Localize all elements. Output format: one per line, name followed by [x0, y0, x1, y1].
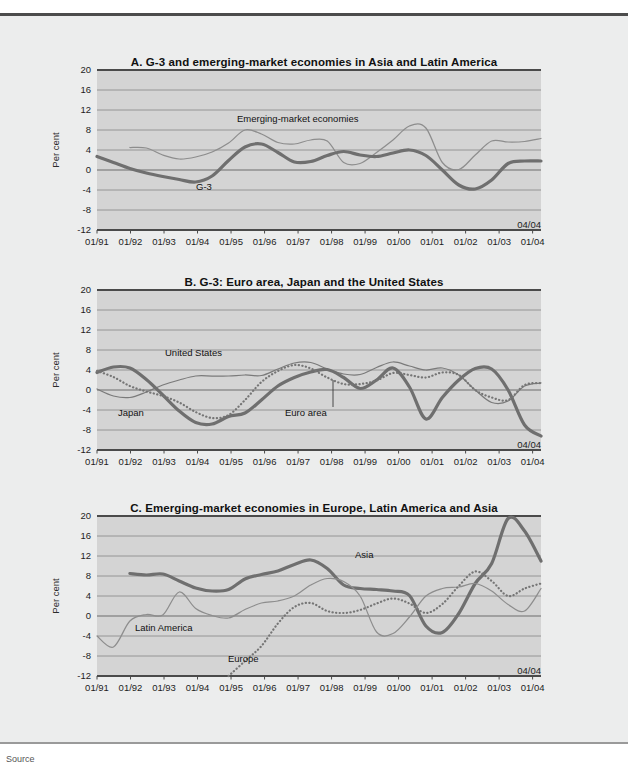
x-tick-label: 01/97: [286, 456, 310, 467]
x-tick-label: 01/02: [454, 456, 478, 467]
series-label-japan: Japan: [118, 407, 144, 418]
panel-a: A. G-3 and emerging-market economies in …: [0, 44, 628, 274]
x-tick-label: 01/94: [186, 456, 210, 467]
y-tick-label: 4: [86, 590, 91, 601]
x-tick-label: 01/00: [387, 682, 411, 693]
y-tick-label: -8: [83, 424, 91, 435]
x-tick-label: 01/92: [119, 682, 143, 693]
bottom-divider-rule: [0, 742, 628, 744]
x-tick-label: 01/97: [286, 682, 310, 693]
series-label-europe: Europe: [228, 653, 259, 664]
x-tick-label: 01/94: [186, 236, 210, 247]
y-tick-label: -4: [83, 404, 91, 415]
x-tick-label: 01/96: [253, 456, 277, 467]
x-tick-label: 01/97: [286, 236, 310, 247]
panel-b: B. G-3: Euro area, Japan and the United …: [0, 264, 628, 494]
x-tick-label: 01/91: [85, 456, 109, 467]
y-tick-label: -8: [83, 650, 91, 661]
y-tick-label: -12: [77, 444, 91, 455]
x-tick-label: 01/99: [353, 456, 377, 467]
x-tick-label: 01/93: [152, 682, 176, 693]
y-tick-label: 8: [86, 124, 91, 135]
panel-a-svg: 201612840-4-8-12Per cent01/9101/9201/930…: [0, 44, 628, 274]
series-label-euro-area: Euro area: [285, 407, 327, 418]
y-tick-label: 12: [80, 324, 91, 335]
x-tick-label: 01/04: [521, 236, 545, 247]
x-tick-label: 01/98: [320, 456, 344, 467]
x-tick-label: 01/03: [487, 682, 511, 693]
x-tick-label: 01/02: [454, 682, 478, 693]
y-tick-label: 0: [86, 384, 91, 395]
y-tick-label: 4: [86, 144, 91, 155]
x-tick-label: 01/95: [219, 236, 243, 247]
y-tick-label: 12: [80, 104, 91, 115]
top-divider-rule: [0, 13, 628, 16]
x-tick-label: 01/03: [487, 456, 511, 467]
y-tick-label: 0: [86, 610, 91, 621]
x-tick-label: 01/98: [320, 682, 344, 693]
x-tick-label: 01/93: [152, 456, 176, 467]
x-axis-end-label: 04/04: [517, 219, 541, 230]
panel-b-svg: 201612840-4-8-12Per cent01/9101/9201/930…: [0, 264, 628, 494]
panel-c-plot: 201612840-4-8-12Per cent01/9101/9201/930…: [0, 490, 628, 730]
x-tick-label: 01/04: [521, 456, 545, 467]
x-tick-label: 01/93: [152, 236, 176, 247]
source-note: Source: [6, 754, 406, 766]
x-tick-label: 01/91: [85, 682, 109, 693]
panel-a-plot: 201612840-4-8-12Per cent01/9101/9201/930…: [0, 44, 628, 274]
x-tick-label: 01/91: [85, 236, 109, 247]
x-tick-label: 01/00: [387, 456, 411, 467]
figure-container: A. G-3 and emerging-market economies in …: [0, 0, 628, 766]
panel-b-plot: 201612840-4-8-12Per cent01/9101/9201/930…: [0, 264, 628, 494]
x-axis-end-label: 04/04: [517, 665, 541, 676]
y-tick-label: 0: [86, 164, 91, 175]
x-tick-label: 01/96: [253, 236, 277, 247]
series-label-asia: Asia: [355, 549, 374, 560]
x-tick-label: 01/01: [420, 682, 444, 693]
x-tick-label: 01/99: [353, 236, 377, 247]
y-tick-label: -4: [83, 630, 91, 641]
panel-c: C. Emerging-market economies in Europe, …: [0, 490, 628, 730]
x-tick-label: 01/92: [119, 236, 143, 247]
x-tick-label: 01/99: [353, 682, 377, 693]
x-tick-label: 01/02: [454, 236, 478, 247]
y-axis-title: Per cent: [50, 352, 61, 388]
x-tick-label: 01/01: [420, 236, 444, 247]
y-axis-title: Per cent: [50, 132, 61, 168]
series-label-emerging-market: Emerging-market economies: [237, 113, 359, 124]
y-tick-label: 8: [86, 570, 91, 581]
y-tick-label: -4: [83, 184, 91, 195]
y-tick-label: -8: [83, 204, 91, 215]
series-label-g3: G-3: [196, 181, 212, 192]
x-tick-label: 01/98: [320, 236, 344, 247]
x-tick-label: 01/94: [186, 682, 210, 693]
y-tick-label: 20: [80, 64, 91, 75]
x-axis-end-label: 04/04: [517, 439, 541, 450]
y-tick-label: 20: [80, 284, 91, 295]
x-tick-label: 01/95: [219, 682, 243, 693]
y-tick-label: 16: [80, 84, 91, 95]
y-tick-label: 12: [80, 550, 91, 561]
y-tick-label: 8: [86, 344, 91, 355]
y-tick-label: 4: [86, 364, 91, 375]
series-label-latin-america: Latin America: [135, 622, 193, 633]
panel-c-svg: 201612840-4-8-12Per cent01/9101/9201/930…: [0, 490, 628, 730]
series-label-united-states: United States: [165, 347, 222, 358]
y-tick-label: 16: [80, 530, 91, 541]
y-tick-label: 20: [80, 510, 91, 521]
x-tick-label: 01/01: [420, 456, 444, 467]
x-tick-label: 01/04: [521, 682, 545, 693]
y-tick-label: -12: [77, 670, 91, 681]
x-tick-label: 01/96: [253, 682, 277, 693]
x-tick-label: 01/95: [219, 456, 243, 467]
y-tick-label: -12: [77, 224, 91, 235]
x-tick-label: 01/92: [119, 456, 143, 467]
x-tick-label: 01/03: [487, 236, 511, 247]
y-axis-title: Per cent: [50, 578, 61, 614]
y-tick-label: 16: [80, 304, 91, 315]
x-tick-label: 01/00: [387, 236, 411, 247]
